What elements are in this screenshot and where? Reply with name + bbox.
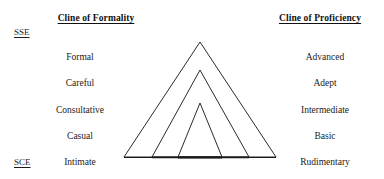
formality-item-formal: Formal	[66, 52, 93, 63]
outer-triangle	[124, 42, 276, 157]
formality-item-casual: Casual	[67, 131, 93, 142]
cline-diagram-figure: Cline of Formality Cline of Proficiency …	[0, 0, 384, 179]
proficiency-item-adept: Adept	[313, 78, 336, 89]
proficiency-item-basic: Basic	[314, 131, 335, 142]
proficiency-item-intermediate: Intermediate	[301, 105, 349, 116]
proficiency-scale-column: Advanced Adept Intermediate Basic Rudime…	[266, 52, 384, 168]
formality-item-careful: Careful	[66, 78, 95, 89]
inner-triangle	[178, 103, 222, 157]
formality-scale-column: Formal Careful Consultative Casual Intim…	[18, 52, 142, 168]
proficiency-item-advanced: Advanced	[306, 52, 345, 63]
proficiency-item-rudimentary: Rudimentary	[300, 157, 350, 168]
middle-triangle	[152, 70, 249, 157]
heading-cline-of-proficiency: Cline of Proficiency	[256, 13, 384, 23]
heading-cline-of-formality: Cline of Formality	[30, 13, 162, 23]
formality-item-intimate: Intimate	[64, 157, 96, 168]
endpoint-label-sse: SSE	[14, 27, 30, 37]
formality-item-consultative: Consultative	[56, 105, 104, 116]
